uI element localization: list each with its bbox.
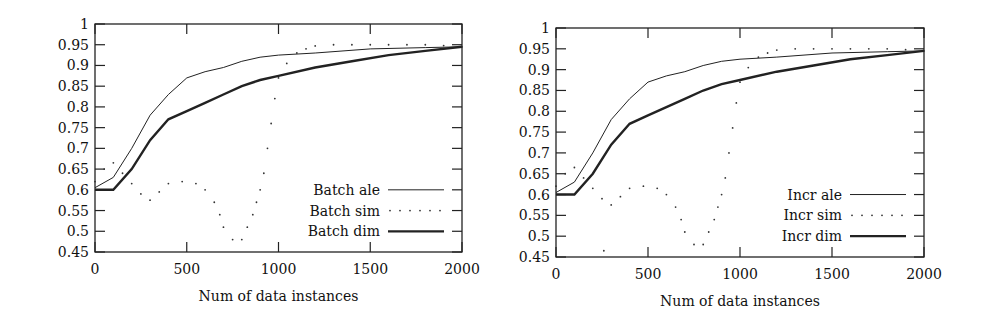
sim-point xyxy=(684,231,686,233)
series-line xyxy=(556,51,924,195)
sim-point xyxy=(424,44,426,46)
y-tick-label: 0.6 xyxy=(528,187,550,203)
sim-point xyxy=(274,98,276,100)
sim-point xyxy=(140,193,142,195)
sim-point xyxy=(267,147,269,149)
plot-incr: 0.450.50.550.60.650.70.750.80.850.90.951… xyxy=(494,0,989,327)
y-tick-label: 0.75 xyxy=(519,124,550,140)
sim-point xyxy=(717,206,719,208)
sim-point xyxy=(758,56,760,58)
sim-point xyxy=(232,239,234,241)
sim-point xyxy=(369,44,371,46)
series-line xyxy=(95,47,462,188)
sim-point xyxy=(603,250,605,252)
sim-point xyxy=(263,172,265,174)
plot-frame xyxy=(95,24,462,252)
x-tick-label: 500 xyxy=(173,261,200,277)
y-tick-label: 0.85 xyxy=(519,82,550,98)
sim-point xyxy=(296,52,298,54)
x-tick-label: 2000 xyxy=(444,261,480,277)
legend-label: Incr sim xyxy=(784,207,842,223)
sim-point xyxy=(732,127,734,129)
sim-point xyxy=(767,52,769,54)
sim-point xyxy=(666,194,668,196)
sim-point xyxy=(574,167,576,169)
sim-point xyxy=(278,77,280,79)
sim-point xyxy=(739,81,741,83)
sim-point xyxy=(219,214,221,216)
y-tick-label: 0.7 xyxy=(67,140,89,156)
sim-point xyxy=(643,185,645,187)
y-tick-label: 0.65 xyxy=(519,166,550,182)
sim-point xyxy=(333,44,335,46)
sim-point xyxy=(259,189,261,191)
sim-point xyxy=(286,62,288,64)
sim-point xyxy=(241,239,243,241)
y-tick-label: 0.5 xyxy=(528,228,550,244)
x-tick-label: 1500 xyxy=(352,261,388,277)
series-line xyxy=(556,51,924,193)
sim-point xyxy=(195,183,197,185)
x-axis-label: Num of data instances xyxy=(199,288,359,304)
x-tick-label: 2000 xyxy=(906,266,942,282)
y-tick-label: 0.85 xyxy=(58,78,89,94)
y-tick-label: 0.9 xyxy=(67,57,89,73)
y-tick-label: 0.95 xyxy=(58,37,89,53)
legend-label: Incr dim xyxy=(782,228,842,244)
x-tick-label: 1000 xyxy=(722,266,758,282)
sim-point xyxy=(813,48,815,50)
sim-point xyxy=(728,152,730,154)
sim-point xyxy=(213,201,215,203)
plot-frame xyxy=(556,28,924,257)
plot-batch: 0.450.50.550.60.650.70.750.80.850.90.951… xyxy=(0,0,494,327)
y-tick-label: 0.45 xyxy=(519,249,550,265)
sim-point xyxy=(246,226,248,228)
sim-point xyxy=(305,48,307,50)
sim-point xyxy=(256,201,258,203)
x-tick-label: 1000 xyxy=(261,261,297,277)
sim-point xyxy=(656,187,658,189)
sim-point xyxy=(713,219,715,221)
x-tick-label: 0 xyxy=(91,261,100,277)
sim-point xyxy=(223,226,225,228)
sim-point xyxy=(620,196,622,198)
sim-point xyxy=(388,44,390,46)
sim-point xyxy=(270,123,272,125)
sim-point xyxy=(158,191,160,193)
sim-point xyxy=(564,173,566,175)
chart-batch: 0.450.50.550.60.650.70.750.80.850.90.951… xyxy=(0,0,494,327)
y-tick-label: 0.5 xyxy=(67,223,89,239)
y-tick-label: 0.55 xyxy=(58,203,89,219)
sim-point xyxy=(708,231,710,233)
y-tick-label: 0.6 xyxy=(67,182,89,198)
sim-point xyxy=(314,45,316,47)
sim-point xyxy=(735,102,737,104)
sim-point xyxy=(724,177,726,179)
y-tick-label: 1 xyxy=(541,20,550,36)
sim-point xyxy=(747,67,749,69)
legend-label: Batch dim xyxy=(308,223,380,239)
sim-point xyxy=(702,244,704,246)
y-tick-label: 0.7 xyxy=(528,145,550,161)
sim-point xyxy=(204,189,206,191)
sim-point xyxy=(629,187,631,189)
x-axis-label: Num of data instances xyxy=(660,293,820,309)
sim-point xyxy=(443,45,445,47)
y-tick-label: 0.95 xyxy=(519,41,550,57)
y-tick-label: 1 xyxy=(80,16,89,32)
sim-point xyxy=(252,214,254,216)
sim-point xyxy=(680,219,682,221)
sim-point xyxy=(351,44,353,46)
y-tick-label: 0.75 xyxy=(58,120,89,136)
sim-point xyxy=(406,44,408,46)
sim-point xyxy=(610,204,612,206)
y-tick-label: 0.45 xyxy=(58,244,89,260)
sim-point xyxy=(675,206,677,208)
sim-point xyxy=(94,181,96,183)
sim-point xyxy=(149,199,151,201)
sim-point xyxy=(794,48,796,50)
y-tick-label: 0.55 xyxy=(519,207,550,223)
sim-point xyxy=(868,48,870,50)
sim-point xyxy=(886,48,888,50)
sim-point xyxy=(693,244,695,246)
